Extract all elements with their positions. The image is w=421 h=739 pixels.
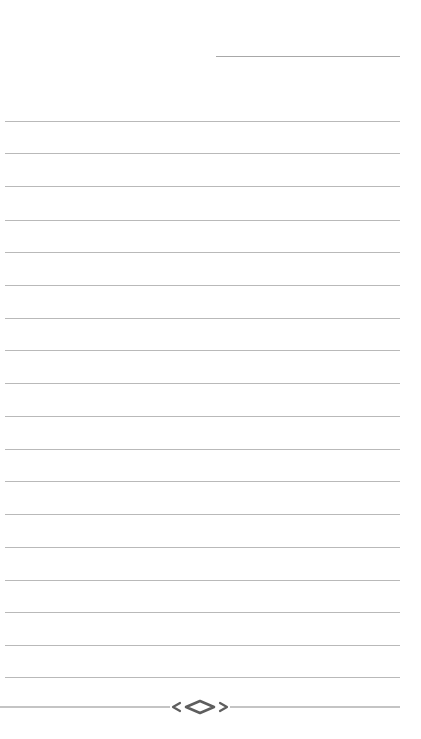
ruled-line: [5, 481, 400, 482]
ruled-line: [5, 186, 400, 187]
ruled-line: [5, 416, 400, 417]
header-rule: [216, 56, 400, 57]
ruled-line: [5, 612, 400, 613]
ruled-line: [5, 252, 400, 253]
footer-ornament-divider: [0, 696, 421, 718]
ruled-line: [5, 514, 400, 515]
ruled-line: [5, 153, 400, 154]
ruled-line: [5, 677, 400, 678]
ruled-line: [5, 449, 400, 450]
ruled-line: [5, 383, 400, 384]
ruled-line: [5, 580, 400, 581]
ruled-line: [5, 547, 400, 548]
notepaper-page: [0, 0, 421, 739]
ruled-line: [5, 121, 400, 122]
ruled-line: [5, 220, 400, 221]
ruled-line: [5, 645, 400, 646]
ruled-line: [5, 285, 400, 286]
diamond-flourish-icon: [0, 696, 421, 718]
ruled-line: [5, 318, 400, 319]
ruled-line: [5, 350, 400, 351]
